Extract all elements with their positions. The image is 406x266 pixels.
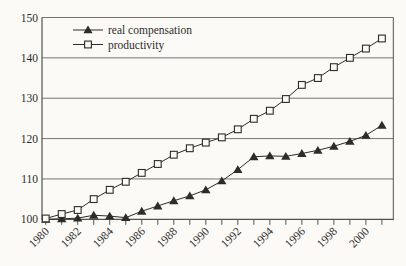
y-axis-label: 110	[21, 173, 38, 185]
productivity-marker	[42, 215, 49, 222]
productivity-marker	[202, 139, 209, 146]
productivity-marker	[90, 196, 97, 203]
productivity-marker	[122, 178, 129, 185]
productivity-marker	[363, 45, 370, 52]
productivity-marker	[106, 186, 113, 193]
y-axis-label: 140	[21, 52, 39, 64]
productivity-marker	[314, 75, 321, 82]
productivity-marker	[330, 64, 337, 71]
y-axis-label: 120	[21, 133, 39, 145]
productivity-marker	[138, 169, 145, 176]
productivity-marker	[154, 161, 161, 168]
productivity-marker	[250, 115, 257, 122]
productivity-marker	[266, 107, 273, 114]
productivity-marker	[298, 82, 305, 89]
productivity-marker	[234, 126, 241, 133]
y-axis-label: 130	[21, 92, 39, 104]
productivity-marker	[170, 151, 177, 158]
legend-label-productivity: productivity	[108, 39, 164, 52]
chart-canvas: 100110120130140150 198019821984198619881…	[0, 0, 406, 266]
y-axis-label: 100	[21, 213, 39, 225]
productivity-marker	[74, 207, 81, 214]
productivity-marker	[186, 145, 193, 152]
y-axis-label: 150	[21, 12, 39, 24]
productivity-marker	[58, 211, 65, 218]
productivity-marker	[282, 96, 289, 103]
productivity-marker	[379, 35, 386, 42]
open-square-icon	[85, 41, 92, 48]
productivity-marker	[346, 54, 353, 61]
productivity-compensation-chart: 100110120130140150 198019821984198619881…	[0, 0, 406, 266]
productivity-marker	[218, 134, 225, 141]
legend-label-real-compensation: real compensation	[108, 24, 192, 37]
